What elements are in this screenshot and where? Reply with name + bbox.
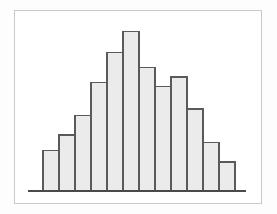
histogram-bar — [43, 150, 59, 191]
bars-group — [43, 32, 235, 192]
histogram-bar — [75, 116, 91, 191]
histogram-bar — [187, 109, 203, 191]
histogram-bar — [59, 135, 75, 191]
histogram-bar — [139, 67, 155, 191]
plot-area — [15, 11, 261, 203]
histogram-bar — [171, 77, 187, 191]
histogram-bar — [107, 53, 123, 191]
histogram-bar — [91, 83, 107, 191]
histogram-figure — [0, 0, 277, 214]
histogram-bar — [219, 162, 235, 191]
plot-frame — [14, 10, 262, 204]
histogram-bar — [155, 87, 171, 191]
histogram-chart — [15, 11, 261, 203]
histogram-bar — [203, 143, 219, 191]
histogram-bar — [123, 32, 139, 192]
